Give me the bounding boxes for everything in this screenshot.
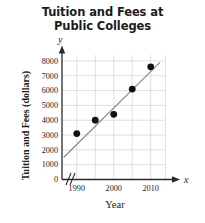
x-tick-labels: 1990 2000 2010 [69,184,159,193]
svg-text:8000: 8000 [42,57,58,66]
svg-text:6000: 6000 [42,86,58,95]
svg-text:7000: 7000 [42,72,58,81]
y-axis [59,46,65,180]
y-axis-variable-label: y [57,34,63,45]
svg-text:0: 0 [54,175,58,184]
svg-text:4000: 4000 [42,116,58,125]
svg-text:2000: 2000 [42,146,58,155]
data-point [129,86,136,93]
data-point [73,130,80,137]
x-axis [62,176,180,182]
x-axis-variable-label: x [183,174,189,185]
data-point [147,63,154,70]
svg-text:5000: 5000 [42,101,58,110]
x-axis-title: Year [50,199,180,210]
vertical-gridlines [77,55,166,179]
plot-area: y x 8000 7000 6000 5000 4000 3000 2000 1… [0,0,205,223]
svg-text:2010: 2010 [143,184,159,193]
data-point [110,111,117,118]
chart-figure: Tuition and Fees at Public Colleges Tuit… [0,0,205,223]
data-point [92,117,99,124]
svg-text:1990: 1990 [69,184,85,193]
svg-text:1000: 1000 [42,160,58,169]
y-tick-labels: 8000 7000 6000 5000 4000 3000 2000 1000 … [42,57,58,185]
svg-text:2000: 2000 [106,184,122,193]
trend-line [64,62,160,157]
svg-text:3000: 3000 [42,131,58,140]
